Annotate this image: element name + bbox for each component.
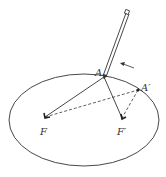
pin-icon-f-prime xyxy=(121,114,126,119)
ellipse-diagram: A A′ F F′ xyxy=(0,0,166,177)
label-point-a-prime: A′ xyxy=(140,82,151,93)
point-a-prime-dot xyxy=(136,88,139,91)
string-f-to-a xyxy=(45,77,104,117)
label-focus-f: F xyxy=(39,126,48,137)
motion-arrow-icon xyxy=(120,62,134,68)
ellipse xyxy=(9,74,159,166)
label-point-a: A xyxy=(94,67,102,78)
string-f-to-a-prime xyxy=(45,90,138,117)
label-focus-f-prime: F′ xyxy=(116,126,127,137)
pencil-icon xyxy=(103,9,130,79)
